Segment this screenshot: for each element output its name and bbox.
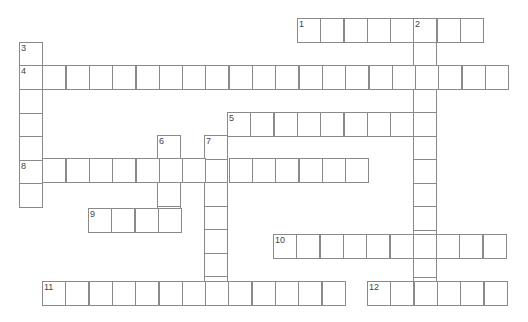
crossword-cell[interactable]: 10 [273, 234, 297, 259]
crossword-cell[interactable] [158, 208, 182, 233]
crossword-cell[interactable] [182, 158, 206, 183]
crossword-cell[interactable] [229, 158, 253, 183]
crossword-cell[interactable] [19, 113, 43, 138]
crossword-cell[interactable] [42, 65, 66, 90]
crossword-cell[interactable] [205, 65, 229, 90]
crossword-cell[interactable] [136, 158, 160, 183]
crossword-cell[interactable] [228, 281, 252, 306]
crossword-cell[interactable] [299, 65, 323, 90]
crossword-cell[interactable] [252, 281, 276, 306]
crossword-cell[interactable] [204, 253, 228, 278]
crossword-cell[interactable] [343, 234, 367, 259]
crossword-cell[interactable]: 12 [367, 281, 391, 306]
crossword-cell[interactable] [460, 18, 484, 43]
crossword-cell[interactable] [112, 158, 136, 183]
crossword-cell[interactable] [484, 281, 508, 306]
crossword-cell[interactable] [460, 281, 484, 306]
crossword-cell[interactable] [112, 65, 136, 90]
crossword-cell[interactable] [205, 281, 229, 306]
crossword-cell[interactable] [252, 158, 276, 183]
crossword-cell[interactable]: 1 [297, 18, 321, 43]
crossword-cell[interactable] [390, 18, 414, 43]
crossword-cell[interactable] [89, 65, 113, 90]
crossword-cell[interactable] [19, 183, 43, 208]
crossword-cell[interactable]: 11 [42, 281, 66, 306]
crossword-cell[interactable]: 7 [204, 135, 228, 160]
crossword-cell[interactable] [322, 65, 346, 90]
crossword-cell[interactable] [297, 112, 321, 137]
crossword-cell[interactable] [111, 208, 135, 233]
crossword-cell[interactable] [275, 158, 299, 183]
crossword-cell[interactable]: 2 [413, 18, 437, 43]
crossword-cell[interactable] [485, 65, 509, 90]
crossword-cell[interactable] [367, 18, 391, 43]
crossword-cell[interactable] [275, 281, 299, 306]
crossword-cell[interactable] [42, 158, 66, 183]
crossword-cell[interactable] [320, 112, 344, 137]
crossword-cell[interactable] [204, 182, 228, 207]
crossword-cell[interactable] [135, 281, 159, 306]
crossword-cell[interactable] [182, 65, 206, 90]
crossword-cell[interactable] [390, 234, 414, 259]
crossword-cell[interactable] [320, 234, 344, 259]
crossword-cell[interactable] [89, 281, 113, 306]
crossword-cell[interactable] [135, 208, 159, 233]
crossword-cell[interactable] [274, 112, 298, 137]
crossword-cell[interactable] [19, 136, 43, 161]
crossword-cell[interactable] [413, 234, 437, 259]
crossword-cell[interactable] [345, 158, 369, 183]
crossword-cell[interactable] [275, 65, 299, 90]
crossword-cell[interactable] [136, 65, 160, 90]
crossword-cell[interactable] [392, 65, 416, 90]
crossword-cell[interactable] [66, 158, 90, 183]
crossword-cell[interactable] [413, 42, 437, 67]
crossword-cell[interactable] [437, 281, 461, 306]
crossword-cell[interactable]: 4 [19, 65, 43, 90]
crossword-cell[interactable] [159, 65, 183, 90]
crossword-cell[interactable] [204, 206, 228, 231]
crossword-cell[interactable] [296, 234, 320, 259]
crossword-cell[interactable] [65, 281, 89, 306]
crossword-cell[interactable] [250, 112, 274, 137]
crossword-cell[interactable] [483, 234, 507, 259]
crossword-cell[interactable] [322, 158, 346, 183]
crossword-cell[interactable] [298, 281, 322, 306]
crossword-cell[interactable] [89, 158, 113, 183]
crossword-cell[interactable] [413, 206, 437, 231]
crossword-cell[interactable] [459, 234, 483, 259]
crossword-cell[interactable] [182, 281, 206, 306]
crossword-cell[interactable]: 6 [157, 135, 181, 160]
crossword-cell[interactable] [414, 281, 438, 306]
crossword-cell[interactable] [413, 89, 437, 114]
crossword-cell[interactable] [159, 281, 183, 306]
crossword-cell[interactable] [345, 65, 369, 90]
crossword-cell[interactable] [415, 65, 439, 90]
crossword-cell[interactable] [438, 65, 462, 90]
crossword-cell[interactable] [413, 112, 437, 137]
crossword-cell[interactable] [229, 65, 253, 90]
crossword-cell[interactable] [437, 18, 461, 43]
crossword-cell[interactable] [19, 89, 43, 114]
crossword-cell[interactable] [369, 65, 393, 90]
crossword-cell[interactable] [344, 112, 368, 137]
crossword-cell[interactable] [112, 281, 136, 306]
crossword-cell[interactable] [252, 65, 276, 90]
crossword-cell[interactable] [413, 183, 437, 208]
crossword-cell[interactable] [299, 158, 323, 183]
crossword-cell[interactable] [322, 281, 346, 306]
crossword-cell[interactable] [436, 234, 460, 259]
crossword-cell[interactable]: 3 [19, 42, 43, 67]
crossword-cell[interactable] [204, 229, 228, 254]
crossword-cell[interactable] [413, 159, 437, 184]
crossword-cell[interactable] [367, 112, 391, 137]
crossword-cell[interactable] [204, 159, 228, 184]
crossword-cell[interactable] [320, 18, 344, 43]
crossword-cell[interactable] [390, 281, 414, 306]
crossword-cell[interactable]: 9 [88, 208, 112, 233]
crossword-cell[interactable]: 5 [227, 112, 251, 137]
crossword-cell[interactable] [390, 112, 414, 137]
crossword-cell[interactable] [413, 136, 437, 161]
crossword-cell[interactable] [462, 65, 486, 90]
crossword-cell[interactable]: 8 [19, 160, 43, 185]
crossword-cell[interactable] [366, 234, 390, 259]
